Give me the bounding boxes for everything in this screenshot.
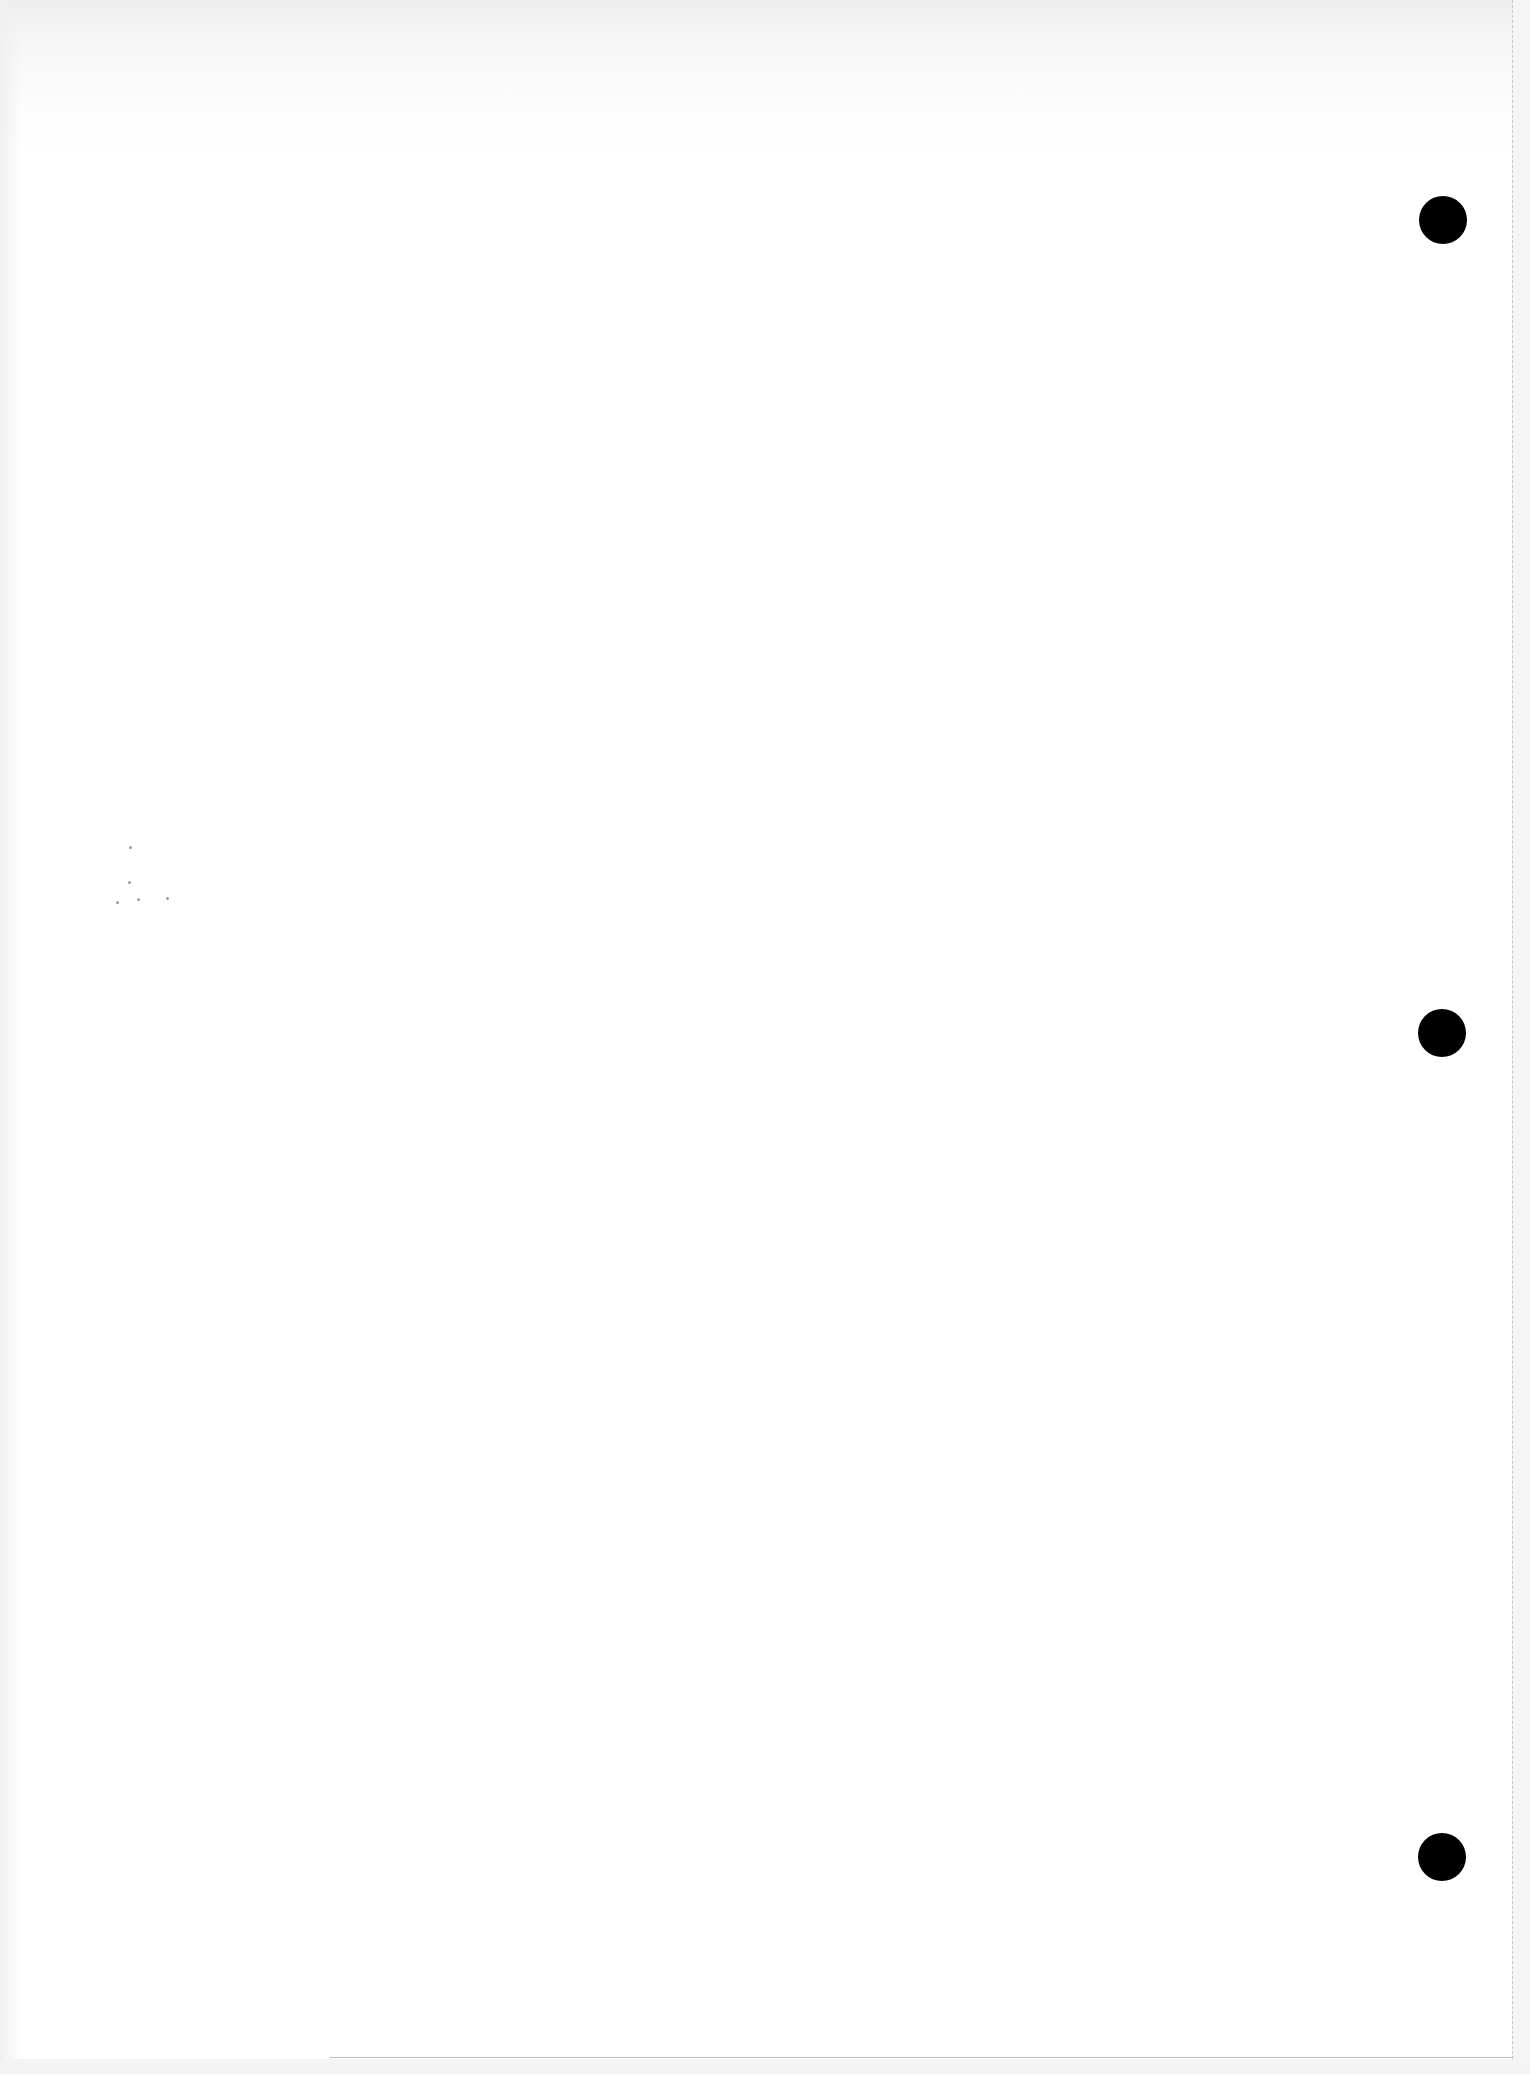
right-margin-strip [1512,0,1530,2074]
scan-speck [166,897,169,900]
punch-hole-top [1419,196,1467,244]
perforation-line [1512,0,1513,2074]
bottom-edge-line [330,2057,1512,2058]
bottom-strip [0,2059,1530,2074]
punch-hole-bottom [1418,1833,1466,1881]
scan-speck [137,898,140,901]
scan-shadow-left [0,0,22,2074]
scanned-page [0,0,1530,2074]
scan-speck [128,881,131,884]
scan-speck [116,901,119,904]
scan-speck [129,846,132,849]
punch-hole-middle [1418,1009,1466,1057]
